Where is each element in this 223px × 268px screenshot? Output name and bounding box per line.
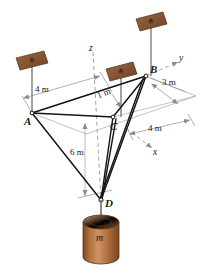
x-axis [126, 128, 152, 148]
cable-ab [32, 76, 146, 113]
cable-bc [113, 76, 146, 117]
joint-nodes [30, 74, 148, 202]
figure-canvas [0, 0, 223, 268]
cables [32, 76, 146, 200]
ceiling-plate-left [16, 51, 48, 70]
cable-ac [32, 113, 113, 117]
cable-cd [101, 117, 113, 200]
ceiling-plate-middle [106, 62, 137, 81]
z-axis-dashed [93, 52, 101, 200]
hanging-mass [83, 200, 119, 264]
ceiling-plate-right [136, 12, 167, 31]
statics-figure: A B C D z y x 4 m 1 m 3 m 4 m 6 m m [0, 0, 223, 268]
